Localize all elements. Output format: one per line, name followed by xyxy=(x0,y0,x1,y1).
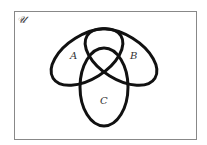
universe-frame xyxy=(15,12,197,140)
set-b-label: B xyxy=(129,50,137,61)
venn-diagram: 𝒰 A B C xyxy=(0,0,207,145)
set-c-label: C xyxy=(100,95,108,106)
set-a-label: A xyxy=(69,50,77,61)
